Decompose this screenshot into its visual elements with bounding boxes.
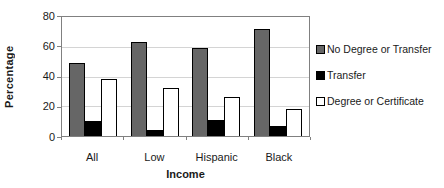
legend-item-no-degree-or-transfer: No Degree or Transfer bbox=[316, 44, 431, 55]
x-axis-title: Income bbox=[61, 168, 310, 180]
bar-group-low bbox=[124, 17, 186, 136]
bar-transfer-low bbox=[147, 130, 163, 136]
bar-no-degree-or-transfer-black bbox=[254, 29, 270, 136]
category-label-all: All bbox=[61, 151, 123, 163]
bar-degree-or-certificate-hispanic bbox=[224, 97, 240, 136]
y-tick-label: 0 bbox=[29, 132, 55, 143]
category-label-hispanic: Hispanic bbox=[186, 151, 248, 163]
x-axis-tick bbox=[61, 137, 62, 140]
legend-item-transfer: Transfer bbox=[316, 70, 431, 81]
bar-no-degree-or-transfer-hispanic bbox=[192, 48, 208, 136]
category-label-low: Low bbox=[123, 151, 185, 163]
bar-no-degree-or-transfer-all bbox=[69, 63, 85, 136]
bar-group-hispanic bbox=[186, 17, 248, 136]
y-tick-label: 60 bbox=[29, 41, 55, 52]
bar-degree-or-certificate-black bbox=[286, 109, 302, 136]
bar-transfer-all bbox=[85, 121, 101, 136]
legend-item-degree-or-certificate: Degree or Certificate bbox=[316, 96, 431, 107]
bar-chart: Percentage 020406080 AllLowHispanicBlack… bbox=[0, 0, 444, 188]
bar-transfer-hispanic bbox=[208, 120, 224, 136]
legend: No Degree or TransferTransferDegree or C… bbox=[316, 44, 431, 107]
bar-degree-or-certificate-low bbox=[163, 88, 179, 136]
legend-swatch-icon bbox=[316, 45, 325, 54]
category-labels: AllLowHispanicBlack bbox=[61, 151, 310, 163]
bar-no-degree-or-transfer-low bbox=[131, 42, 147, 136]
y-tick-label: 80 bbox=[29, 11, 55, 22]
y-tick-label: 20 bbox=[29, 101, 55, 112]
category-label-black: Black bbox=[248, 151, 310, 163]
legend-swatch-icon bbox=[316, 71, 325, 80]
y-axis-title: Percentage bbox=[2, 16, 16, 137]
y-tick-label: 40 bbox=[29, 71, 55, 82]
x-axis-tick bbox=[123, 137, 124, 140]
legend-label: No Degree or Transfer bbox=[327, 44, 431, 55]
legend-label: Transfer bbox=[327, 70, 366, 81]
plot-area bbox=[61, 16, 310, 137]
bar-group-all bbox=[62, 17, 124, 136]
bar-degree-or-certificate-all bbox=[101, 79, 117, 136]
x-axis-tick bbox=[186, 137, 187, 140]
x-axis-tick bbox=[310, 137, 311, 140]
legend-label: Degree or Certificate bbox=[327, 96, 424, 107]
bar-group-black bbox=[247, 17, 309, 136]
legend-swatch-icon bbox=[316, 97, 325, 106]
bar-transfer-black bbox=[270, 126, 286, 136]
bar-groups bbox=[62, 17, 309, 136]
x-axis-tick bbox=[248, 137, 249, 140]
